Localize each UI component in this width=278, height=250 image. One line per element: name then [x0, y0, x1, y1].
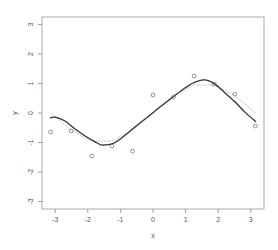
x-axis-title: x: [151, 232, 155, 239]
x-tick-label: 3: [249, 216, 253, 223]
y-axis: -3-2-10123: [27, 22, 42, 204]
chart: -3-2-10123 -3-2-10123 x y: [0, 0, 278, 250]
x-tick-label: 2: [216, 216, 220, 223]
y-tick-label: 1: [27, 81, 34, 85]
y-tick-label: 3: [27, 22, 34, 26]
data-point: [49, 130, 53, 134]
x-tick-label: 1: [184, 216, 188, 223]
y-tick-label: 0: [27, 111, 34, 115]
x-tick-label: 0: [151, 216, 155, 223]
x-tick-label: -1: [117, 216, 123, 223]
fitted-curve-line: [50, 80, 256, 145]
data-point: [192, 74, 196, 78]
y-tick-label: -3: [27, 198, 34, 204]
data-point: [110, 144, 114, 148]
x-tick-label: -3: [52, 216, 58, 223]
y-tick-label: 2: [27, 52, 34, 56]
x-axis: -3-2-10123: [52, 209, 253, 223]
series-lines: [50, 80, 256, 145]
data-point: [90, 154, 94, 158]
data-point: [253, 124, 257, 128]
y-tick-label: -2: [27, 169, 34, 175]
data-point: [131, 149, 135, 153]
data-point: [69, 129, 73, 133]
y-tick-label: -1: [27, 139, 34, 145]
x-tick-label: -2: [85, 216, 91, 223]
y-axis-title: y: [11, 111, 19, 115]
plot-area: [42, 17, 264, 209]
series-points: [49, 74, 258, 158]
data-point: [151, 93, 155, 97]
